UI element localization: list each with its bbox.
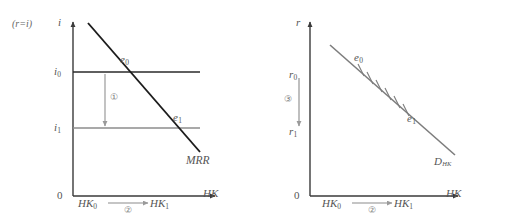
left-point-e0-sub: 0	[125, 58, 129, 67]
right-tick-r0: r0	[289, 69, 297, 81]
left-point-e1-sub: 1	[178, 116, 182, 125]
right-tick-r1-sub: 1	[293, 130, 297, 139]
right-curve-label-base: D	[434, 155, 442, 167]
right-shift-from-base: HK	[322, 197, 337, 209]
right-origin-label: 0	[294, 190, 300, 201]
right-point-e1-sub: 1	[412, 117, 416, 126]
left-origin-label: 0	[57, 190, 63, 201]
left-rate-equality-note: (r=i)	[12, 18, 32, 29]
right-step-marker-2: ②	[368, 206, 376, 215]
left-shift-to-base: HK	[150, 197, 165, 209]
left-shift-to-sub: 1	[165, 202, 169, 211]
left-shift-to: HK1	[150, 197, 169, 211]
right-point-e0: e0	[354, 52, 363, 64]
left-tick-i1-sub: 1	[57, 126, 61, 135]
right-shift-from: HK0	[322, 197, 341, 211]
right-y-axis-label: r	[296, 17, 300, 28]
chart-panel-left: (r=i) i 0 HK i0 i1 e0 e1 MRR ① HK0 HK1 ②	[0, 0, 254, 221]
right-point-e1: e1	[407, 113, 416, 125]
left-x-axis-label: HK	[203, 188, 218, 199]
left-tick-i0-sub: 0	[57, 70, 61, 79]
left-step-marker-1: ①	[110, 93, 118, 102]
right-curve-label-dhk: DHK	[434, 156, 451, 168]
right-step-marker-3: ③	[284, 95, 292, 104]
left-shift-from-sub: 0	[93, 202, 97, 211]
economics-figure: (r=i) i 0 HK i0 i1 e0 e1 MRR ① HK0 HK1 ②	[0, 0, 508, 221]
left-curve-label-mrr: MRR	[186, 155, 210, 167]
right-demand-curve	[330, 45, 455, 155]
right-curve-label-sub: HK	[442, 160, 451, 167]
right-shift-to-sub: 1	[409, 202, 413, 211]
right-tick-r0-sub: 0	[293, 73, 297, 82]
left-shift-from-base: HK	[78, 197, 93, 209]
left-point-e0: e0	[120, 54, 129, 66]
right-chart-svg	[254, 0, 508, 221]
chart-panel-right: r 0 HK r0 r1 e0 e1 DHK ③ HK0 HK1 ②	[254, 0, 508, 221]
left-tick-i1: i1	[54, 122, 61, 134]
left-shift-from: HK0	[78, 197, 97, 211]
left-step-marker-2: ②	[124, 206, 132, 215]
left-y-axis-label: i	[58, 17, 61, 28]
right-tick-r1: r1	[289, 126, 297, 138]
right-shift-to-base: HK	[394, 197, 409, 209]
right-shift-to: HK1	[394, 197, 413, 211]
right-shift-from-sub: 0	[337, 202, 341, 211]
left-point-e1: e1	[173, 112, 182, 124]
right-x-axis-label: HK	[446, 188, 461, 199]
left-tick-i0: i0	[54, 66, 61, 78]
right-point-e0-sub: 0	[359, 56, 363, 65]
